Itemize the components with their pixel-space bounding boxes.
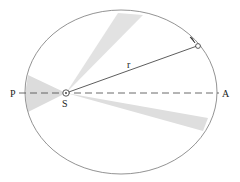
label-sun: S: [62, 98, 68, 109]
label-radius: r: [127, 59, 131, 70]
sector-lower-right: [66, 93, 208, 131]
planet-marker: [196, 44, 201, 49]
sector-near-perihelion: [26, 75, 66, 112]
sector-top: [66, 13, 143, 93]
direction-arrow-icon: [190, 37, 195, 43]
label-perihelion: P: [10, 88, 16, 99]
kepler-diagram: P A S r: [0, 0, 240, 182]
label-aphelion: A: [222, 88, 230, 99]
sun-dot: [65, 92, 67, 94]
